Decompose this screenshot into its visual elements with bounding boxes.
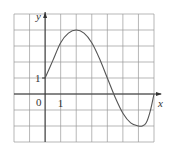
y-tick-1-label: 1	[35, 72, 41, 84]
chart: y x 0 1 1	[0, 0, 177, 155]
y-axis-label: y	[35, 10, 41, 22]
x-axis-label: x	[157, 97, 163, 109]
x-tick-1-label: 1	[58, 97, 64, 109]
origin-label: 0	[36, 96, 42, 108]
